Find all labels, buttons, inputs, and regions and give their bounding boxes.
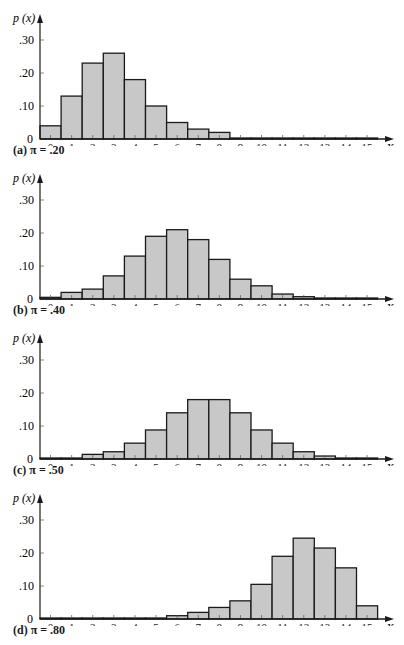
x-axis-label: X (385, 301, 394, 306)
x-tick-label: 15 (362, 461, 374, 466)
x-tick-label: 2 (90, 301, 96, 306)
x-tick-label: 8 (217, 301, 223, 306)
bar-x-10 (251, 430, 272, 459)
y-tick-label: .20 (19, 386, 34, 400)
bar-x-9 (230, 413, 251, 459)
x-tick-label: 6 (174, 621, 180, 626)
y-tick-label: .10 (19, 579, 34, 593)
x-tick-label: 4 (132, 301, 138, 306)
x-tick-label: 3 (111, 461, 117, 466)
bar-x-7 (188, 400, 209, 459)
x-tick-label: 15 (362, 141, 374, 146)
x-tick-label: 10 (256, 461, 268, 466)
histogram-b: 0123456789101112131415Xp (x)0.10.20.30 (0, 160, 404, 306)
chart-panel-a: 0123456789101112131415Xp (x)0.10.20.30 (… (0, 0, 404, 160)
bar-x-4 (124, 256, 145, 299)
x-tick-label: 15 (362, 621, 374, 626)
x-tick-label: 12 (298, 301, 309, 306)
x-tick-label: 9 (238, 141, 244, 146)
bar-x-8 (209, 400, 230, 459)
y-tick-label: .30 (19, 193, 34, 207)
histogram-a: 0123456789101112131415Xp (x)0.10.20.30 (0, 0, 404, 146)
bar-x-1 (61, 96, 82, 139)
x-tick-label: 15 (362, 301, 374, 306)
x-tick-label: 5 (153, 621, 159, 626)
caption-b: (b) π = .40 (13, 303, 65, 318)
x-tick-label: 13 (319, 141, 331, 146)
x-tick-label: 5 (153, 461, 159, 466)
x-tick-label: 12 (298, 461, 309, 466)
x-tick-label: 14 (340, 301, 352, 306)
histogram-d: 0123456789101112131415Xp (x)0.10.20.30 (0, 480, 404, 626)
x-tick-label: 13 (319, 621, 331, 626)
x-axis-label: X (385, 621, 394, 626)
x-tick-label: 14 (340, 621, 352, 626)
bar-x-14 (335, 568, 356, 619)
y-tick-label: .30 (19, 513, 34, 527)
x-tick-label: 6 (174, 461, 180, 466)
x-tick-label: 1 (69, 301, 75, 306)
x-axis-label: X (385, 461, 394, 466)
y-tick-label: .10 (19, 259, 34, 273)
y-tick-label: .10 (19, 419, 34, 433)
x-tick-label: 8 (217, 141, 223, 146)
x-tick-label: 3 (111, 621, 117, 626)
x-tick-label: 10 (256, 621, 268, 626)
x-tick-label: 9 (238, 621, 244, 626)
x-tick-label: 14 (340, 141, 352, 146)
x-tick-label: 1 (69, 141, 75, 146)
x-tick-label: 5 (153, 141, 159, 146)
chart-panel-d: 0123456789101112131415Xp (x)0.10.20.30 (… (0, 480, 404, 645)
x-tick-label: 3 (111, 141, 117, 146)
x-tick-label: 11 (277, 461, 288, 466)
bar-x-8 (209, 259, 230, 299)
x-tick-label: 5 (153, 301, 159, 306)
x-tick-label: 10 (256, 301, 268, 306)
x-tick-label: 6 (174, 141, 180, 146)
bar-x-4 (124, 80, 145, 139)
x-tick-label: 11 (277, 301, 288, 306)
caption-c: (c) π = .50 (13, 463, 64, 478)
x-tick-label: 4 (132, 461, 138, 466)
y-axis-label: p (x) (12, 171, 35, 185)
chart-panel-c: 0123456789101112131415Xp (x)0.10.20.30 (… (0, 320, 404, 480)
y-tick-label: .20 (19, 226, 34, 240)
chart-panel-b: 0123456789101112131415Xp (x)0.10.20.30 (… (0, 160, 404, 320)
y-tick-label: .20 (19, 546, 34, 560)
x-tick-label: 14 (340, 461, 352, 466)
x-tick-label: 13 (319, 301, 331, 306)
x-tick-label: 4 (132, 621, 138, 626)
bar-x-13 (314, 548, 335, 619)
x-tick-label: 7 (196, 621, 202, 626)
x-tick-label: 13 (319, 461, 331, 466)
y-tick-label: .10 (19, 99, 34, 113)
y-axis-label: p (x) (12, 11, 35, 25)
bar-x-7 (188, 240, 209, 299)
x-axis-label: X (385, 141, 394, 146)
y-tick-label: .20 (19, 66, 34, 80)
bar-x-12 (293, 538, 314, 619)
histogram-c: 0123456789101112131415Xp (x)0.10.20.30 (0, 320, 404, 466)
x-tick-label: 3 (111, 301, 117, 306)
y-tick-label: .30 (19, 33, 34, 47)
x-tick-label: 7 (196, 301, 202, 306)
x-tick-label: 4 (132, 141, 138, 146)
x-tick-label: 2 (90, 461, 96, 466)
bar-x-5 (146, 430, 167, 459)
bar-x-5 (146, 236, 167, 299)
x-tick-label: 2 (90, 141, 96, 146)
x-tick-label: 12 (298, 621, 309, 626)
x-tick-label: 7 (196, 141, 202, 146)
y-axis-label: p (x) (12, 331, 35, 345)
x-tick-label: 2 (90, 621, 96, 626)
bar-x-6 (167, 230, 188, 299)
bar-x-10 (251, 584, 272, 619)
caption-a: (a) π = .20 (13, 143, 64, 158)
x-tick-label: 8 (217, 461, 223, 466)
x-tick-label: 10 (256, 141, 268, 146)
x-tick-label: 7 (196, 461, 202, 466)
x-tick-label: 1 (69, 621, 75, 626)
bar-x-11 (272, 556, 293, 619)
bar-x-6 (167, 413, 188, 459)
x-tick-label: 9 (238, 301, 244, 306)
